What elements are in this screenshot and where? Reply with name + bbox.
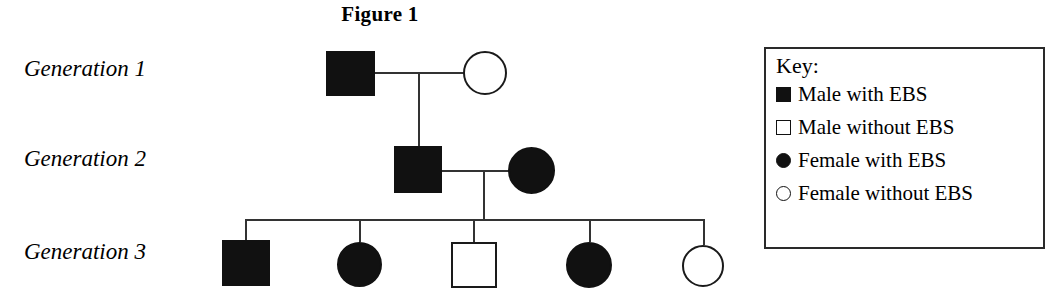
individual-generation3-child-2 (337, 242, 382, 287)
individual-generation1-father (326, 51, 375, 96)
drop-line-generation3-child-1 (245, 219, 247, 241)
key-entry-male-without-ebs: Male without EBS (776, 111, 1043, 144)
drop-line-generation3-child-4 (589, 219, 591, 242)
key-entry-female-with-ebs: Female with EBS (776, 144, 1043, 177)
individual-generation1-mother (463, 51, 507, 95)
individual-generation3-child-4 (566, 242, 612, 288)
generation-2-label: Generation 2 (24, 146, 146, 172)
pedigree-figure: Figure 1 Generation 1 Generation 2 Gener… (0, 0, 1055, 302)
drop-line-generation3-child-3 (473, 219, 475, 242)
drop-line-generation3-child-5 (703, 219, 705, 245)
key-entry-male-with-ebs: Male with EBS (776, 78, 1043, 111)
key-entry-label: Female with EBS (798, 150, 946, 171)
individual-generation3-child-5 (682, 245, 724, 287)
generation-1-label: Generation 1 (24, 56, 146, 82)
key-title: Key: (776, 53, 1043, 78)
filled-square-icon (776, 87, 791, 102)
key-entry-label: Male with EBS (798, 84, 928, 105)
mating-line-generation2 (442, 170, 510, 172)
descent-line-generation2-to-generation3 (483, 170, 485, 221)
individual-generation3-child-3 (451, 242, 497, 288)
individual-generation3-child-1 (222, 240, 270, 286)
filled-circle-icon (776, 153, 791, 168)
page-title: Figure 1 (0, 2, 760, 27)
descent-line-generation1-to-generation2 (418, 72, 420, 146)
key-entry-label: Female without EBS (798, 183, 973, 204)
drop-line-generation3-child-2 (359, 219, 361, 242)
key-entry-female-without-ebs: Female without EBS (776, 177, 1043, 210)
individual-generation2-father (394, 146, 442, 193)
key-legend-box: Key: Male with EBS Male without EBS Fema… (764, 47, 1045, 249)
generation-3-label: Generation 3 (24, 239, 146, 265)
key-entry-label: Male without EBS (798, 117, 954, 138)
individual-generation2-mother (508, 147, 555, 194)
open-circle-icon (776, 186, 791, 201)
open-square-icon (776, 120, 791, 135)
